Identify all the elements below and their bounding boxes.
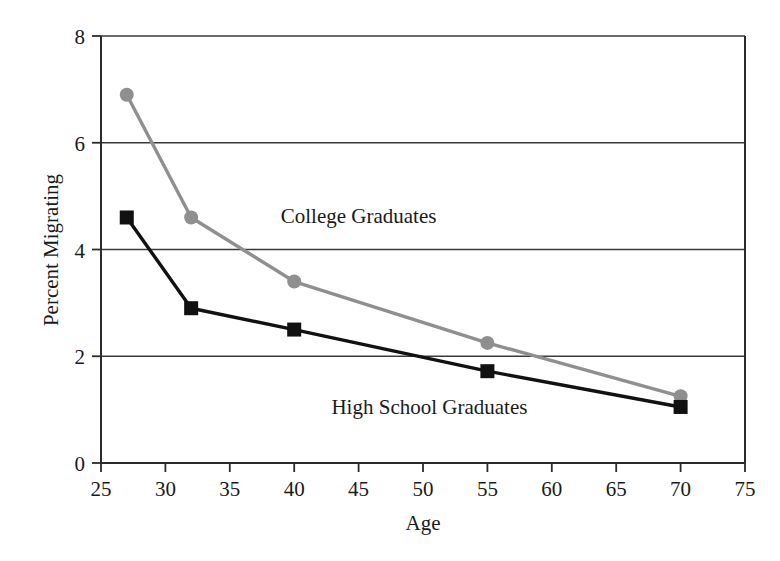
x-axis-ticks [101, 463, 745, 472]
y-axis-title: Percent Migrating [39, 173, 63, 326]
x-tick-label: 60 [541, 477, 562, 501]
x-tick-label: 55 [477, 477, 498, 501]
x-tick-label: 70 [670, 477, 691, 501]
series-annotation-label: College Graduates [281, 204, 437, 228]
x-tick-label: 65 [606, 477, 627, 501]
x-tick-label: 50 [413, 477, 434, 501]
data-point-marker [287, 275, 301, 289]
y-axis-ticks [92, 36, 101, 463]
series-line [127, 217, 681, 406]
data-point-marker [184, 301, 198, 315]
chart-container: 2530354045505560657075 02468 College Gra… [0, 0, 780, 561]
x-tick-label: 75 [735, 477, 756, 501]
data-point-marker [674, 400, 688, 414]
series-markers [120, 88, 688, 414]
y-tick-label: 4 [75, 239, 86, 263]
x-tick-label: 40 [284, 477, 305, 501]
series-annotation-label: High School Graduates [331, 395, 527, 419]
x-tick-label: 25 [91, 477, 112, 501]
data-point-marker [120, 210, 134, 224]
y-axis-tick-labels: 02468 [75, 25, 86, 476]
x-tick-label: 45 [348, 477, 369, 501]
x-axis-tick-labels: 2530354045505560657075 [91, 477, 756, 501]
series-lines [127, 95, 681, 407]
x-axis-title: Age [406, 511, 441, 535]
y-tick-label: 2 [75, 345, 86, 369]
x-tick-label: 35 [219, 477, 240, 501]
line-chart: 2530354045505560657075 02468 College Gra… [0, 0, 780, 561]
data-point-marker [120, 88, 134, 102]
series-labels: College GraduatesHigh School Graduates [281, 204, 528, 419]
data-point-marker [480, 364, 494, 378]
data-point-marker [480, 336, 494, 350]
x-tick-label: 30 [155, 477, 176, 501]
y-tick-label: 0 [75, 452, 86, 476]
data-point-marker [184, 210, 198, 224]
y-tick-label: 8 [75, 25, 86, 49]
series-line [127, 95, 681, 397]
y-tick-label: 6 [75, 132, 86, 156]
data-point-marker [287, 323, 301, 337]
